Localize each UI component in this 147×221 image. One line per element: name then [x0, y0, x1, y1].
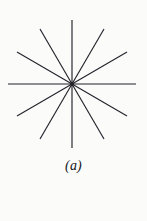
figure-caption: (a)	[0, 157, 147, 175]
star-diagram-canvas	[0, 0, 147, 168]
star-diagram	[0, 0, 147, 168]
figure-panel: (a)	[0, 0, 147, 221]
center-point	[70, 82, 74, 86]
